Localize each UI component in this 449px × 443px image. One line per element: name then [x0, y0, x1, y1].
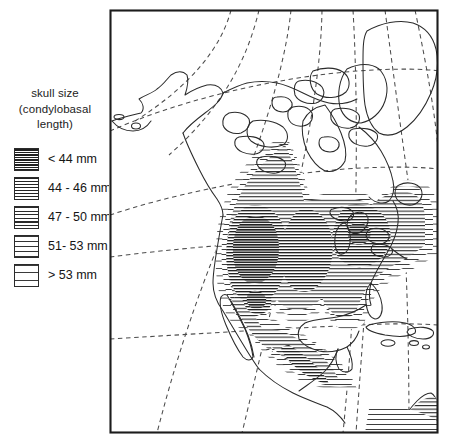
legend-item: 44 - 46 mm — [14, 174, 110, 203]
legend-item: > 53 mm — [14, 261, 110, 290]
legend-swatch-icon — [14, 235, 39, 258]
legend-item-label: 44 - 46 mm — [48, 181, 111, 195]
map-canvas — [109, 9, 439, 434]
legend-item-label: > 53 mm — [48, 268, 97, 282]
legend-swatch-icon — [14, 177, 39, 200]
legend-swatch-icon — [14, 264, 39, 287]
legend-title-line-2: (condylobasal — [2, 102, 108, 118]
legend-item-label: 47 - 50 mm — [48, 210, 111, 224]
legend-swatch-icon — [14, 206, 39, 229]
map-panel — [109, 9, 439, 434]
legend-swatch-icon — [14, 148, 39, 171]
map-legend: skull size (condylobasal length) < 44 mm… — [0, 86, 110, 290]
legend-item: 51- 53 mm — [14, 232, 110, 261]
legend-title: skull size (condylobasal length) — [0, 86, 110, 133]
legend-item: 47 - 50 mm — [14, 203, 110, 232]
legend-item-label: 51- 53 mm — [48, 239, 108, 253]
distribution-map-figure: skull size (condylobasal length) < 44 mm… — [0, 0, 449, 443]
legend-item: < 44 mm — [14, 145, 110, 174]
legend-item-label: < 44 mm — [48, 152, 97, 166]
legend-title-line-1: skull size — [2, 86, 108, 102]
legend-entry-list: < 44 mm 44 - 46 mm 47 - 50 mm 51- 53 mm … — [0, 145, 110, 290]
legend-title-line-3: length) — [2, 117, 108, 133]
